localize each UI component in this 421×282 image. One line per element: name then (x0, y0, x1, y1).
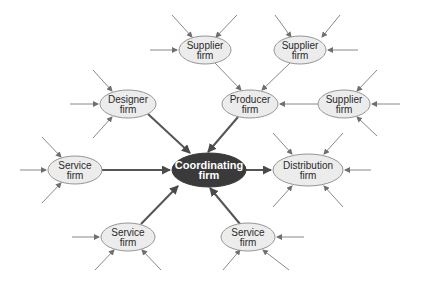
input-arrow-to-distribution (273, 133, 292, 154)
network-organization-diagram: CoordinatingfirmSupplierfirmSupplierfirm… (0, 0, 421, 282)
node-designer: Designerfirm (100, 90, 156, 118)
arrow-supplier1-to-producer (215, 63, 241, 90)
input-arrow-to-service-bl (95, 250, 114, 270)
node-label-line2: firm (67, 170, 84, 181)
node-label-line2: firm (292, 50, 309, 61)
input-arrow-to-service-bl (142, 250, 161, 270)
input-arrow-to-supplier3 (357, 117, 377, 136)
node-label-line2: firm (240, 237, 257, 248)
node-service-br: Servicefirm (221, 223, 275, 251)
input-arrow-to-supplier2 (322, 15, 340, 37)
input-arrow-to-supplier2 (275, 15, 291, 37)
input-arrow-to-designer (93, 117, 112, 138)
node-service-bl: Servicefirm (101, 223, 155, 251)
node-label-line2: firm (300, 170, 317, 181)
input-arrow-to-distribution (324, 133, 343, 154)
input-arrow-to-service-br (263, 250, 289, 270)
input-arrow-to-distribution (324, 186, 343, 207)
input-arrow-to-distribution (273, 186, 292, 207)
input-arrow-to-service-left (42, 137, 61, 157)
arrow-supplier2-to-producer (262, 63, 290, 90)
arrow-producer-to-coordinating (208, 117, 238, 152)
node-label-line2: firm (120, 237, 137, 248)
input-arrow-to-service-br (223, 250, 240, 270)
input-arrow-to-supplier1 (216, 15, 237, 37)
node-coordinating: Coordinatingfirm (172, 153, 246, 187)
node-distribution: Distributionfirm (273, 154, 343, 186)
input-arrow-to-designer (93, 70, 112, 91)
input-arrow-to-supplier1 (172, 15, 192, 37)
node-supplier1: Supplierfirm (179, 36, 231, 64)
arrow-designer-to-coordinating (148, 114, 190, 153)
node-service-left: Servicefirm (48, 156, 102, 184)
node-label-line2: firm (197, 50, 214, 61)
arrow-service-br-to-coordinating (210, 188, 240, 224)
node-label-line2: firm (336, 104, 353, 115)
node-label-line2: firm (120, 104, 137, 115)
input-arrow-to-supplier3 (357, 70, 377, 91)
firm-nodes: CoordinatingfirmSupplierfirmSupplierfirm… (48, 36, 370, 251)
relationship-arrows (102, 63, 318, 224)
node-producer: Producerfirm (222, 90, 278, 118)
node-label-line2: firm (199, 169, 220, 181)
node-supplier3: Supplierfirm (318, 90, 370, 118)
arrow-service-bl-to-coordinating (141, 186, 178, 224)
node-label-line2: firm (242, 104, 259, 115)
node-supplier2: Supplierfirm (274, 36, 326, 64)
input-arrow-to-service-left (42, 183, 61, 203)
